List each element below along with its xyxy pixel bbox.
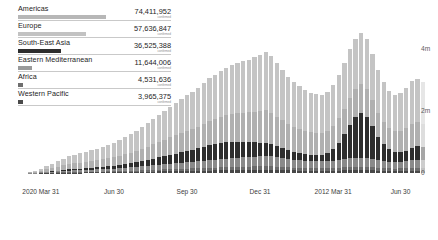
- bar-segment: [309, 132, 313, 154]
- bar-segment: [224, 170, 228, 173]
- bar-column[interactable]: [89, 150, 93, 173]
- bar-column[interactable]: [78, 153, 82, 173]
- bar-column[interactable]: [129, 134, 133, 173]
- bar-column[interactable]: [140, 127, 144, 173]
- bar-column[interactable]: [67, 156, 71, 173]
- bar-column[interactable]: [314, 94, 318, 173]
- bar-column[interactable]: [365, 39, 369, 173]
- bar-column[interactable]: [247, 60, 251, 173]
- bar-segment: [241, 142, 245, 158]
- bar-segment: [348, 170, 352, 173]
- bar-column[interactable]: [84, 152, 88, 173]
- bar-segment: [224, 142, 228, 158]
- bar-column[interactable]: [241, 61, 245, 173]
- bar-segment: [123, 154, 127, 164]
- bar-segment: [365, 117, 369, 158]
- bar-segment: [370, 159, 374, 167]
- bar-column[interactable]: [421, 82, 425, 173]
- bar-segment: [353, 117, 357, 158]
- bar-column[interactable]: [275, 63, 279, 173]
- bar-column[interactable]: [393, 95, 397, 173]
- bar-column[interactable]: [72, 155, 76, 173]
- bar-segment: [342, 159, 346, 167]
- bar-column[interactable]: [387, 91, 391, 173]
- bar-column[interactable]: [33, 171, 37, 173]
- bar-column[interactable]: [410, 81, 414, 173]
- bar-column[interactable]: [123, 137, 127, 173]
- bar-column[interactable]: [415, 79, 419, 173]
- bar-segment: [348, 49, 352, 97]
- x-axis-tick-label: Jun 30: [104, 188, 124, 196]
- bar-column[interactable]: [342, 63, 346, 173]
- bar-column[interactable]: [235, 63, 239, 173]
- bar-column[interactable]: [185, 95, 189, 173]
- bar-column[interactable]: [196, 88, 200, 173]
- bar-column[interactable]: [292, 82, 296, 173]
- bar-segment: [314, 171, 318, 173]
- bar-column[interactable]: [219, 71, 223, 173]
- bar-segment: [224, 115, 228, 142]
- bar-column[interactable]: [179, 99, 183, 173]
- bar-column[interactable]: [207, 78, 211, 173]
- bar-column[interactable]: [101, 147, 105, 173]
- bar-column[interactable]: [168, 107, 172, 173]
- bar-column[interactable]: [376, 70, 380, 173]
- bar-column[interactable]: [134, 131, 138, 173]
- bar-column[interactable]: [230, 65, 234, 173]
- bar-segment: [190, 150, 194, 162]
- bar-column[interactable]: [50, 164, 54, 173]
- bar-column[interactable]: [325, 92, 329, 173]
- bar-column[interactable]: [39, 169, 43, 173]
- bar-segment: [179, 99, 183, 133]
- bar-column[interactable]: [359, 33, 363, 173]
- bar-column[interactable]: [309, 93, 313, 173]
- bar-column[interactable]: [224, 68, 228, 173]
- bar-segment: [179, 133, 183, 152]
- bar-segment: [365, 89, 369, 117]
- bar-column[interactable]: [112, 143, 116, 173]
- bar-column[interactable]: [162, 111, 166, 173]
- bar-column[interactable]: [157, 115, 161, 173]
- bar-column[interactable]: [258, 55, 262, 173]
- bar-column[interactable]: [151, 119, 155, 173]
- bar-segment: [398, 171, 402, 173]
- bar-segment: [162, 156, 166, 164]
- bar-column[interactable]: [337, 75, 341, 173]
- bar-column[interactable]: [353, 39, 357, 173]
- bar-segment: [415, 171, 419, 173]
- bar-segment: [353, 170, 357, 173]
- bar-column[interactable]: [264, 52, 268, 173]
- bar-column[interactable]: [28, 172, 32, 173]
- bar-column[interactable]: [269, 56, 273, 173]
- bar-column[interactable]: [61, 159, 65, 174]
- bar-column[interactable]: [320, 95, 324, 173]
- bar-column[interactable]: [404, 88, 408, 173]
- bar-column[interactable]: [146, 123, 150, 173]
- bar-column[interactable]: [382, 82, 386, 173]
- bar-column[interactable]: [297, 86, 301, 173]
- bar-column[interactable]: [280, 70, 284, 173]
- bar-column[interactable]: [190, 92, 194, 173]
- bar-segment: [252, 142, 256, 156]
- bar-segment: [280, 148, 284, 158]
- bar-column[interactable]: [174, 103, 178, 173]
- y-axis-tick-label: 4m: [421, 45, 430, 52]
- bar-segment: [275, 63, 279, 116]
- bar-column[interactable]: [252, 57, 256, 173]
- bar-column[interactable]: [286, 77, 290, 173]
- bar-column[interactable]: [348, 49, 352, 173]
- bar-segment: [190, 162, 194, 169]
- bar-column[interactable]: [213, 75, 217, 173]
- bar-column[interactable]: [44, 166, 48, 173]
- bar-column[interactable]: [370, 54, 374, 173]
- bar-segment: [123, 137, 127, 154]
- bar-column[interactable]: [106, 145, 110, 173]
- bar-column[interactable]: [95, 149, 99, 173]
- bar-column[interactable]: [303, 90, 307, 173]
- bar-column[interactable]: [331, 85, 335, 173]
- bar-column[interactable]: [202, 83, 206, 173]
- bar-column[interactable]: [117, 140, 121, 173]
- bar-segment: [348, 125, 352, 158]
- bar-column[interactable]: [56, 161, 60, 173]
- bar-column[interactable]: [398, 93, 402, 173]
